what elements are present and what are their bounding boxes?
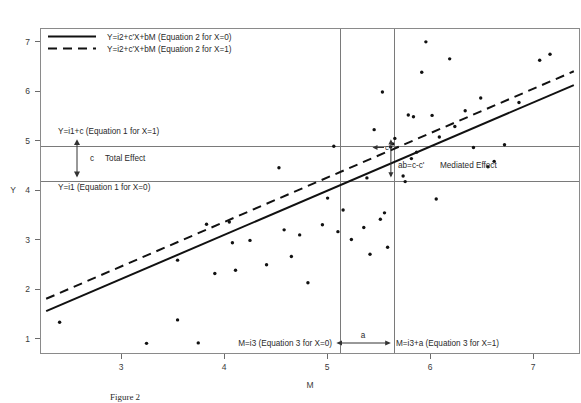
- data-point: [383, 211, 386, 214]
- y-tick-label-5: 5: [25, 136, 30, 146]
- mediated-effect-label: Mediated Effect: [440, 161, 497, 170]
- x-axis-title: M: [306, 380, 313, 390]
- data-point: [386, 246, 389, 249]
- data-point: [362, 226, 365, 229]
- data-point: [401, 174, 404, 177]
- data-point: [332, 144, 335, 147]
- data-point: [403, 180, 406, 183]
- data-point: [231, 241, 234, 244]
- y-tick-label-6: 6: [25, 86, 30, 96]
- y-tick-label-7: 7: [25, 37, 30, 47]
- data-point: [350, 238, 353, 241]
- data-point: [277, 166, 280, 169]
- y-axis-ticks: 1 2 3 4 5 6 7: [25, 37, 40, 344]
- data-point: [365, 176, 368, 179]
- a-path-symbol: a: [361, 331, 366, 340]
- data-point: [407, 113, 410, 116]
- data-point: [453, 125, 456, 128]
- data-point: [379, 218, 382, 221]
- data-point: [213, 272, 216, 275]
- scatter-points-group: [58, 40, 552, 345]
- data-point: [176, 258, 179, 261]
- total-effect-label: Total Effect: [105, 154, 146, 163]
- legend-label-x1: Y=i2+c'X+bM (Equation 2 for X=1): [107, 45, 232, 54]
- data-point: [197, 341, 200, 344]
- m-low-reference-label: M=i3 (Equation 3 for X=0): [238, 339, 332, 348]
- data-point: [306, 281, 309, 284]
- data-point: [503, 143, 506, 146]
- data-point: [321, 223, 324, 226]
- data-point: [479, 96, 482, 99]
- x-tick-label-4: 4: [222, 362, 227, 372]
- data-point: [393, 137, 396, 140]
- y-tick-label-3: 3: [25, 235, 30, 245]
- data-point: [326, 196, 329, 199]
- data-point: [372, 128, 375, 131]
- data-point: [517, 101, 520, 104]
- data-point: [290, 255, 293, 258]
- data-point: [448, 57, 451, 60]
- data-point: [298, 233, 301, 236]
- x-tick-label-7: 7: [531, 362, 536, 372]
- data-point: [58, 321, 61, 324]
- y-tick-label-2: 2: [25, 284, 30, 294]
- data-point: [341, 208, 344, 211]
- data-point: [538, 59, 541, 62]
- y-axis-title: Y: [10, 185, 16, 195]
- data-point: [265, 263, 268, 266]
- mediation-scatter-plot: 1 2 3 4 5 6 7 Y 3 4 5 6 7 M: [0, 0, 581, 403]
- data-point: [472, 146, 475, 149]
- data-point: [435, 197, 438, 200]
- regression-line-x0: [46, 85, 574, 311]
- total-effect-arrow: [74, 139, 80, 177]
- data-point: [420, 71, 423, 74]
- x-tick-label-6: 6: [428, 362, 433, 372]
- a-path-arrow: [336, 341, 391, 346]
- data-point: [438, 135, 441, 138]
- legend-label-x0: Y=i2+c'X+bM (Equation 2 for X=0): [107, 33, 232, 42]
- data-point: [430, 114, 433, 117]
- y-tick-label-4: 4: [25, 185, 30, 195]
- data-point: [248, 239, 251, 242]
- data-point: [145, 342, 148, 345]
- y-low-reference-label: Y=i1 (Equation 1 for X=0): [58, 183, 151, 192]
- data-point: [282, 228, 285, 231]
- x-tick-label-3: 3: [119, 362, 124, 372]
- data-point: [176, 318, 179, 321]
- data-point: [381, 90, 384, 93]
- data-point: [548, 53, 551, 56]
- data-point: [336, 230, 339, 233]
- data-point: [205, 223, 208, 226]
- figure-caption: Figure 2: [110, 392, 140, 402]
- y-high-reference-label: Y=i1+c (Equation 1 for X=1): [58, 127, 160, 136]
- figure-container: 1 2 3 4 5 6 7 Y 3 4 5 6 7 M: [0, 0, 581, 403]
- y-tick-label-1: 1: [25, 334, 30, 344]
- data-point: [368, 252, 371, 255]
- x-tick-label-5: 5: [325, 362, 330, 372]
- x-axis-ticks: 3 4 5 6 7: [119, 354, 536, 372]
- m-high-reference-label: M=i3+a (Equation 3 for X=1): [396, 339, 499, 348]
- data-point: [410, 157, 413, 160]
- legend: Y=i2+c'X+bM (Equation 2 for X=0) Y=i2+c'…: [48, 33, 232, 54]
- data-point: [463, 109, 466, 112]
- data-point: [412, 115, 415, 118]
- mediated-effect-symbol: ab=c-c': [398, 161, 425, 170]
- data-point: [234, 269, 237, 272]
- data-point: [424, 40, 427, 43]
- total-effect-symbol: c: [90, 154, 94, 163]
